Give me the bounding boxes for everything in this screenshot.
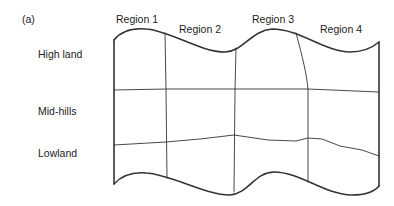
region-divider-1-2 <box>165 33 167 178</box>
zone-boundary-mid-low <box>114 135 379 156</box>
landscape-diagram <box>0 0 394 206</box>
region-divider-2-3 <box>234 48 236 192</box>
zone-boundary-high-mid <box>114 89 379 92</box>
region-divider-3-4 <box>296 33 308 182</box>
bottom-border <box>114 172 379 195</box>
top-border <box>114 29 379 52</box>
